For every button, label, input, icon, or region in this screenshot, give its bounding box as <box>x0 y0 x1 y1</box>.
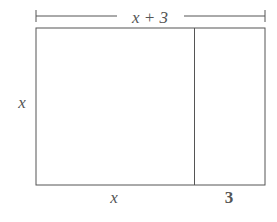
top-label: x + 3 <box>131 8 168 27</box>
bottom-label-3: 3 <box>225 188 234 207</box>
area-model-diagram: x + 3 x x 3 <box>0 0 277 222</box>
bottom-label-x: x <box>109 188 118 207</box>
outer-rectangle <box>36 28 265 185</box>
left-label: x <box>17 93 26 112</box>
